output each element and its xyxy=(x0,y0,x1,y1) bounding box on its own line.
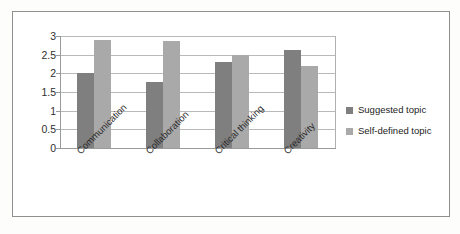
chart-legend: Suggested topicSelf-defined topic xyxy=(346,104,458,146)
chart-figure: 00.511.522.53 CommunicationCollaboration… xyxy=(0,0,460,234)
y-axis-tick-label: 2.5 xyxy=(22,50,56,61)
plot-right-edge xyxy=(335,36,336,149)
legend-item[interactable]: Suggested topic xyxy=(346,104,458,116)
y-axis-labels: 00.511.522.53 xyxy=(18,36,56,148)
legend-label: Self-defined topic xyxy=(358,126,431,136)
y-axis-tick-label: 3 xyxy=(22,31,56,42)
y-axis-tick-label: 0 xyxy=(22,143,56,154)
y-axis-tick-label: 1 xyxy=(22,106,56,117)
legend-item[interactable]: Self-defined topic xyxy=(346,125,458,137)
y-axis-tick-label: 0.5 xyxy=(22,124,56,135)
legend-label: Suggested topic xyxy=(358,105,426,115)
chart-border-frame: 00.511.522.53 CommunicationCollaboration… xyxy=(12,11,450,217)
legend-swatch-icon xyxy=(346,107,353,114)
x-axis-category-labels: CommunicationCollaborationCritical think… xyxy=(60,149,350,219)
y-axis-line xyxy=(60,36,61,149)
y-axis-tick-label: 1.5 xyxy=(22,87,56,98)
y-axis-tick-label: 2 xyxy=(22,68,56,79)
legend-swatch-icon xyxy=(346,128,353,135)
